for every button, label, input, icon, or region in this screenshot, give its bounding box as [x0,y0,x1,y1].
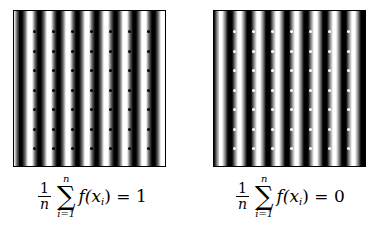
sample-point [128,108,131,111]
close-paren: ) [302,186,309,206]
sample-point [309,147,312,150]
sample-point [109,108,112,111]
sample-point [309,128,312,131]
left-stripe-panel [13,10,166,167]
fraction-numerator: 1 [38,181,51,197]
sample-point [290,108,293,111]
sample-point [328,128,331,131]
sample-point [33,108,36,111]
sample-point [252,69,255,72]
sample-point [347,30,350,33]
sample-point [347,89,350,92]
sample-point [290,50,293,53]
sample-point [271,50,274,53]
sample-point [128,89,131,92]
sample-point [147,30,150,33]
sample-point [90,128,93,131]
sample-point [271,128,274,131]
equals-sign: = [111,186,136,206]
sample-point [52,128,55,131]
sample-point [109,89,112,92]
sample-point [33,89,36,92]
sample-point [52,147,55,150]
sample-point [233,108,236,111]
sample-point [71,108,74,111]
sample-point [347,69,350,72]
sample-point [90,89,93,92]
sample-point [290,147,293,150]
sample-point [109,30,112,33]
sample-point [290,30,293,33]
sample-point [309,69,312,72]
sigma-symbol: ∑ [255,184,274,208]
sample-point [90,30,93,33]
sample-point [128,69,131,72]
sample-point [271,147,274,150]
sample-point [252,128,255,131]
left-formula: 1 n n ∑ i=1 f(xi) = 1 [38,170,147,222]
sample-point [147,128,150,131]
close-paren: ) [104,186,111,206]
sum-lower-limit: i=1 [57,208,75,219]
sample-point [71,128,74,131]
sample-point [252,89,255,92]
sample-point [109,128,112,131]
fraction-denominator: n [40,197,49,212]
sample-point [52,50,55,53]
right-stripe-panel [213,10,366,167]
sample-point [271,89,274,92]
sample-point [147,108,150,111]
sample-point [71,89,74,92]
sample-point [33,128,36,131]
fraction-denominator: n [238,197,247,212]
sample-point [147,147,150,150]
sample-point [328,69,331,72]
sample-point [33,147,36,150]
sample-point [109,147,112,150]
function-call: f(x [276,186,299,206]
sample-point [128,147,131,150]
sample-point [90,108,93,111]
sample-point [347,128,350,131]
sample-point [271,108,274,111]
sample-point [347,50,350,53]
sample-point [109,69,112,72]
sample-point [52,30,55,33]
sample-point [271,69,274,72]
sample-point [128,128,131,131]
sample-point [90,69,93,72]
sample-point [233,128,236,131]
fraction: 1 n [236,181,249,212]
sample-point [128,50,131,53]
sample-point [290,69,293,72]
sum-lower-limit: i=1 [255,208,273,219]
function-call: f(x [78,186,101,206]
sample-point [290,128,293,131]
sample-point [90,147,93,150]
sample-point [52,89,55,92]
sample-point [147,89,150,92]
sample-point [233,50,236,53]
sample-point [252,30,255,33]
sample-point [347,147,350,150]
sample-point [233,69,236,72]
sample-point [33,50,36,53]
sample-point [328,108,331,111]
sample-point [347,108,350,111]
sample-point [71,147,74,150]
formula-result: 0 [334,186,345,206]
sample-point [71,50,74,53]
sample-point [328,147,331,150]
sample-point [252,50,255,53]
sample-point [309,30,312,33]
sample-point [328,89,331,92]
sample-point [52,108,55,111]
function-expression: f(xi) = 0 [276,186,344,207]
function-expression: f(xi) = 1 [78,186,146,207]
sample-point [52,69,55,72]
sample-point [252,108,255,111]
sample-point [147,50,150,53]
right-formula: 1 n n ∑ i=1 f(xi) = 0 [236,170,345,222]
sample-point [90,50,93,53]
sample-point [33,69,36,72]
